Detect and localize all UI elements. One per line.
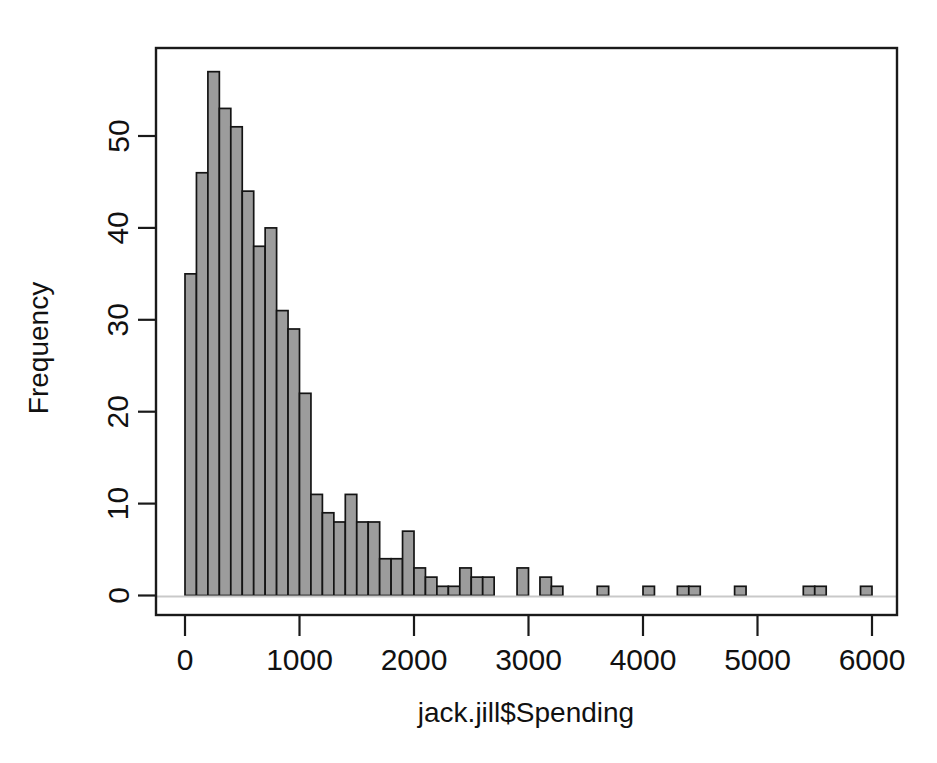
histogram-bar [357, 522, 368, 596]
histogram-bar [265, 228, 276, 596]
x-axis-tick-label: 6000 [839, 643, 906, 676]
x-axis-tick-label: 5000 [724, 643, 791, 676]
x-axis-tick-label: 2000 [381, 643, 448, 676]
histogram-bar [242, 191, 253, 595]
y-axis-title: Frequency [23, 282, 54, 414]
histogram-bar [597, 586, 608, 595]
y-axis-tick-label: 0 [102, 587, 135, 604]
y-axis-tick-label: 30 [102, 303, 135, 336]
histogram-bar [517, 568, 528, 596]
x-axis-tick-label: 4000 [610, 643, 677, 676]
x-axis-tick-label: 3000 [495, 643, 562, 676]
histogram-bar [288, 329, 299, 596]
histogram-bar [425, 577, 436, 595]
histogram-bar [803, 586, 814, 595]
histogram-bar [815, 586, 826, 595]
histogram-bar [208, 72, 219, 596]
histogram-bar [231, 127, 242, 596]
x-axis-tick-label: 0 [177, 643, 194, 676]
histogram-bar [483, 577, 494, 595]
histogram-bar [219, 108, 230, 595]
y-axis-tick-label: 20 [102, 395, 135, 428]
histogram-bar [185, 274, 196, 596]
histogram-bar [345, 494, 356, 595]
histogram-bar [196, 173, 207, 596]
histogram-bar [540, 577, 551, 595]
histogram-bar [460, 568, 471, 596]
histogram-bar [448, 586, 459, 595]
histogram-bar [677, 586, 688, 595]
histogram-bar [643, 586, 654, 595]
histogram-bar [254, 246, 265, 595]
x-axis-tick-label: 1000 [266, 643, 333, 676]
histogram-bar [277, 311, 288, 596]
histogram-bar [300, 393, 311, 595]
histogram-bar [551, 586, 562, 595]
y-axis-tick-label: 50 [102, 119, 135, 152]
histogram-bar [334, 522, 345, 596]
histogram-figure: 01020304050 0100020003000400050006000 ja… [0, 0, 937, 763]
histogram-bar [322, 513, 333, 596]
x-axis-title: jack.jill$Spending [417, 697, 634, 728]
histogram-bar [380, 559, 391, 596]
histogram-bar [403, 531, 414, 595]
histogram-bar [414, 568, 425, 596]
histogram-svg: 01020304050 0100020003000400050006000 ja… [0, 0, 937, 763]
histogram-bar [391, 559, 402, 596]
histogram-bar [735, 586, 746, 595]
histogram-bar [437, 586, 448, 595]
figure-background [0, 0, 937, 763]
histogram-bar [471, 577, 482, 595]
histogram-bar [689, 586, 700, 595]
y-axis-tick-label: 40 [102, 211, 135, 244]
y-axis-tick-label: 10 [102, 487, 135, 520]
histogram-bar [861, 586, 872, 595]
histogram-bar [368, 522, 379, 596]
histogram-bar [311, 494, 322, 595]
